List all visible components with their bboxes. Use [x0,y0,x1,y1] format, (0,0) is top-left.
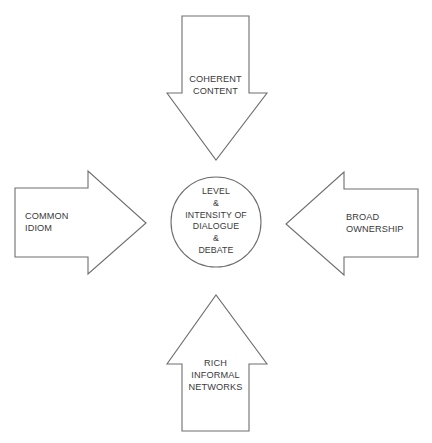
label-line: LEVEL [171,186,261,198]
label-line: BROAD [346,211,404,223]
label-line: DEBATE [171,245,261,257]
label-line: DIALOGUE [171,221,261,233]
label-line: COHERENT [182,73,249,85]
label-line: RICH [182,357,249,369]
label-line: & [171,198,261,210]
label-line: OWNERSHIP [346,223,404,235]
label-line: INTENSITY OF [171,210,261,222]
arrow-label-common-idiom: COMMON IDIOM [25,210,68,234]
center-label-dialogue-debate: LEVEL & INTENSITY OF DIALOGUE & DEBATE [171,186,261,257]
arrow-label-coherent-content: COHERENT CONTENT [182,73,249,97]
label-line: INFORMAL [182,369,249,381]
arrow-label-rich-informal-networks: RICH INFORMAL NETWORKS [182,357,249,393]
label-line: IDIOM [25,222,68,234]
label-line: NETWORKS [182,381,249,393]
label-line: CONTENT [182,85,249,97]
arrow-label-broad-ownership: BROAD OWNERSHIP [346,211,404,235]
label-line: COMMON [25,210,68,222]
label-line: & [171,233,261,245]
